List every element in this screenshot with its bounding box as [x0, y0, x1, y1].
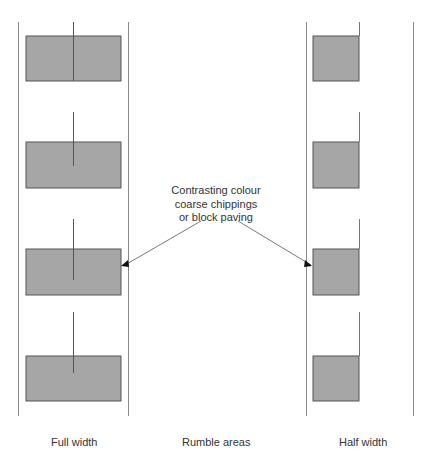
- rumble-area-4: [313, 356, 359, 401]
- rumble-area-3: [313, 249, 359, 295]
- arrow-line-left: [125, 221, 201, 265]
- callout-line-2: coarse chippings: [146, 198, 286, 212]
- callout-arrows: [121, 221, 312, 267]
- rumble-area-2: [313, 142, 359, 188]
- half-width-panel: [307, 22, 414, 416]
- rumble-area-1: [313, 36, 359, 81]
- arrow-line-right: [238, 221, 311, 265]
- full-width-panel: [19, 22, 129, 416]
- arrowhead-left-icon: [121, 260, 129, 267]
- callout-text: Contrasting colour coarse chippings or b…: [146, 184, 286, 225]
- rumble-area-diagram: [0, 0, 431, 458]
- label-rumble-areas: Rumble areas: [182, 436, 250, 448]
- callout-line-1: Contrasting colour: [146, 184, 286, 198]
- callout-line-3: or block paving: [146, 211, 286, 225]
- label-full-width: Full width: [51, 436, 97, 448]
- arrowhead-right-icon: [304, 260, 312, 267]
- label-half-width: Half width: [339, 436, 387, 448]
